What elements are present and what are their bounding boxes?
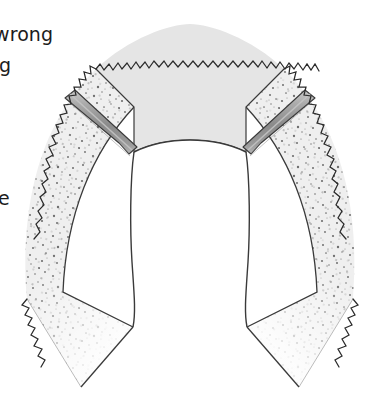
upper-dome — [96, 24, 284, 152]
right-stippled-panel — [246, 69, 355, 387]
label-g: g — [0, 55, 11, 76]
left-stippled-panel — [25, 69, 134, 387]
label-e: e — [0, 188, 10, 209]
illustration-page: wrong g e — [0, 0, 379, 414]
flap-diagram-figure — [0, 0, 379, 414]
label-wrong: wrong — [0, 24, 53, 45]
central-opening — [130, 140, 250, 327]
